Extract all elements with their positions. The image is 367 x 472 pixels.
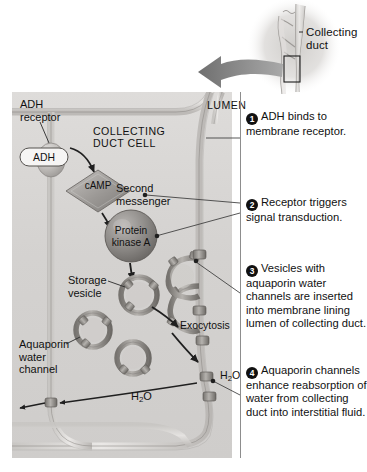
leader-step-2a [146,195,240,203]
leader-dot-aquaporin [211,379,216,384]
leader-step-3 [196,262,240,293]
leader-step-4 [213,381,240,395]
leader-dot-vesicle [194,259,199,264]
leader-dot-camp [143,193,148,198]
step-leader-lines [0,0,367,472]
leader-dot-pka [155,234,160,239]
figure-canvas: Collecting duct [0,0,367,472]
leader-step-2b [156,213,240,236]
